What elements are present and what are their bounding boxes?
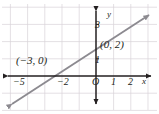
y-intercept-label: (0, 2) [100,39,124,50]
x-intercept-label: (−3, 0) [16,55,47,66]
y-tick-label-3: 3 [95,20,100,30]
x-tick-label-2: 2 [128,77,133,87]
x-tick-label-neg5: −5 [13,77,25,87]
y-axis-label: y [107,10,111,19]
y-tick-label-1: 1 [95,55,100,65]
x-tick-label-neg2: −2 [57,77,69,87]
coordinate-plane-figure: −5 −2 O 1 2 x 3 1 y (−3, 0) (0, 2) [0,0,159,114]
x-axis-label: x [142,77,146,86]
origin-label: O [92,77,99,87]
x-tick-label-1: 1 [111,77,116,87]
